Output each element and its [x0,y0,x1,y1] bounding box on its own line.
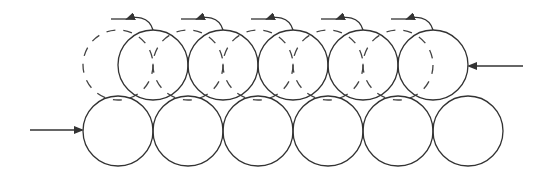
force-arrows [30,66,523,130]
curved-arrow-icon [267,17,293,30]
bottom-circle [153,96,223,166]
bottom-circle [83,96,153,166]
bottom-circle [293,96,363,166]
bottom-circle [363,96,433,166]
bottom-circle [223,96,293,166]
curved-arrow-icon [127,17,153,30]
rolling-direction-arrows [111,17,433,30]
bottom-row-circles [83,96,503,166]
curved-arrow-icon [337,17,363,30]
diagram-canvas [0,0,549,171]
rolling-circles-diagram [0,0,549,171]
curved-arrow-icon [407,17,433,30]
bottom-circle [433,96,503,166]
curved-arrow-icon [197,17,223,30]
